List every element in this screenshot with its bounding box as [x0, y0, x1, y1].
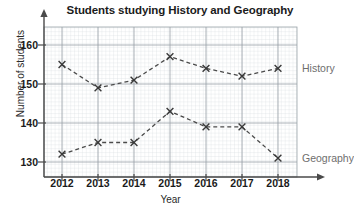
y-tick-140: 140	[8, 117, 38, 129]
y-axis-arrow-icon	[40, 9, 47, 17]
y-tick-160: 160	[8, 39, 38, 51]
x-axis-title: Year	[44, 194, 297, 205]
legend-label-history: History	[302, 62, 335, 74]
x-axis-arrow-icon	[317, 173, 325, 180]
y-tick-label: 160	[12, 39, 38, 51]
y-tick-label: 150	[12, 78, 38, 90]
minor-gridlines	[44, 27, 297, 177]
plot-area	[44, 27, 297, 177]
chart-title: Students studying History and Geography	[55, 4, 305, 16]
x-tick-label-2018: 2018	[258, 177, 298, 189]
y-tick-130: 130	[8, 156, 38, 168]
x-tick-label-2014: 2014	[114, 177, 154, 189]
y-axis-title: Number of students	[15, 14, 26, 134]
y-tick-150: 150	[8, 78, 38, 90]
legend-label-geography: Geography	[302, 152, 354, 164]
y-tick-label: 130	[12, 156, 38, 168]
x-tick-label-2016: 2016	[186, 177, 226, 189]
x-tick-label-2013: 2013	[78, 177, 118, 189]
y-tick-label: 140	[12, 117, 38, 129]
x-tick-label-2017: 2017	[222, 177, 262, 189]
x-tick-label-2015: 2015	[150, 177, 190, 189]
x-tick-label-2012: 2012	[42, 177, 82, 189]
